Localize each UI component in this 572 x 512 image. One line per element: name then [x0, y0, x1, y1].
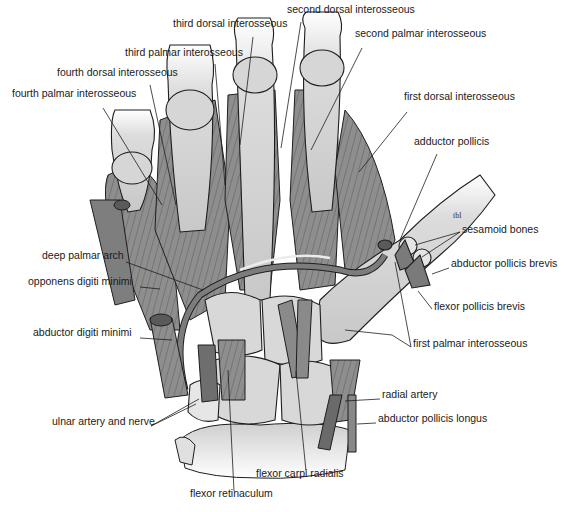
label-abductor-pollicis-brevis: abductor pollicis brevis [451, 257, 557, 269]
label-flexor-pollicis-brevis: flexor pollicis brevis [434, 300, 525, 312]
label-deep-palmar-arch: deep palmar arch [42, 249, 124, 261]
label-second-dorsal-interosseous: second dorsal interosseous [287, 3, 415, 15]
label-ulnar-artery-and-nerve: ulnar artery and nerve [52, 415, 155, 427]
label-abductor-pollicis-longus: abductor pollicis longus [378, 412, 487, 424]
label-adductor-pollicis: adductor pollicis [414, 135, 489, 147]
label-flexor-carpi-radialis: flexor carpi radialis [256, 467, 344, 479]
label-fourth-palmar-interosseous: fourth palmar interosseous [12, 87, 136, 99]
label-third-dorsal-interosseous: third dorsal interosseous [173, 17, 287, 29]
signature: tbl [453, 211, 462, 220]
label-third-palmar-interosseous: third palmar interosseous [125, 46, 243, 58]
label-fourth-dorsal-interosseous: fourth dorsal interosseous [57, 66, 178, 78]
label-second-palmar-interosseous: second palmar interosseous [355, 27, 486, 39]
label-first-dorsal-interosseous: first dorsal interosseous [404, 90, 515, 102]
label-flexor-retinaculum: flexor retinaculum [190, 487, 273, 499]
label-opponens-digiti-minimi: opponens digiti minimi [28, 275, 132, 287]
label-radial-artery: radial artery [382, 388, 437, 400]
label-first-palmar-interosseous: first palmar interosseous [413, 337, 527, 349]
label-sesamoid-bones: sesamoid bones [462, 223, 538, 235]
label-abductor-digiti-minimi: abductor digiti minimi [33, 326, 132, 338]
anatomy-figure: tbl second dor [0, 0, 572, 512]
